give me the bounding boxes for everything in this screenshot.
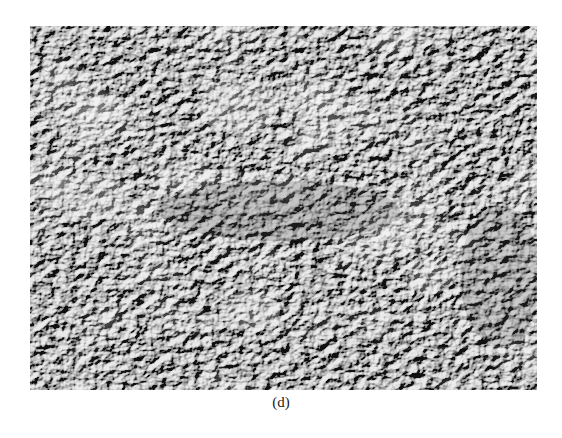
figure-panel: (d) [0,0,562,438]
micrograph-image [30,26,537,390]
panel-caption: (d) [0,394,562,411]
